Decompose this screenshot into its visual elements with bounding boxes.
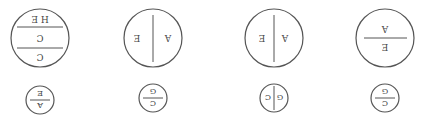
large-circle-4: A E xyxy=(356,9,414,67)
large-circle-2: A E xyxy=(124,9,182,67)
label-a: A xyxy=(37,101,44,110)
label-e: E xyxy=(259,33,266,43)
label-a: A xyxy=(281,33,289,43)
label-c: C xyxy=(265,93,271,102)
large-circle-3: A E xyxy=(245,9,303,67)
small-circle-1: E A xyxy=(26,86,54,114)
label-c-mid: C xyxy=(36,33,43,43)
label-e: E xyxy=(37,89,43,98)
label-he: H E xyxy=(31,14,48,24)
small-circle-3: G C xyxy=(260,84,288,112)
label-c: C xyxy=(150,99,156,108)
diagram-canvas: H E C C A E A E A E E A G C G xyxy=(0,0,423,118)
label-c: C xyxy=(382,99,388,108)
label-g: G xyxy=(150,87,156,96)
small-circle-2: G C xyxy=(139,84,167,112)
label-g: G xyxy=(277,93,283,102)
small-circle-4: G C xyxy=(371,84,399,112)
label-g: G xyxy=(382,87,388,96)
large-circle-1: H E C C xyxy=(11,9,69,67)
label-a: A xyxy=(164,33,172,43)
label-e: E xyxy=(382,42,389,52)
label-c-bottom: C xyxy=(36,52,43,62)
label-a: A xyxy=(381,24,389,34)
label-e: E xyxy=(134,33,141,43)
